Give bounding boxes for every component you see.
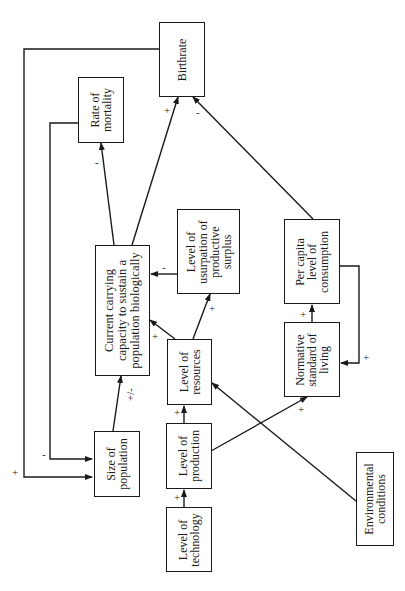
sign-res-usurp: + bbox=[209, 303, 215, 314]
node-birthrate: Birthrate bbox=[159, 22, 205, 97]
node-label: Level of production bbox=[177, 430, 201, 482]
sign-res-cap: + bbox=[152, 331, 158, 342]
node-label: Normative standard of living bbox=[294, 333, 330, 387]
node-rate-of-mortality: Rate of mortality bbox=[78, 77, 124, 143]
sign-pop-cap: +/- bbox=[125, 388, 136, 401]
node-normative-standard: Normative standard of living bbox=[284, 322, 340, 397]
sign-cap-birth: + bbox=[164, 105, 170, 116]
node-level-of-technology: Level of technology bbox=[166, 507, 212, 572]
sign-birth-pop: + bbox=[12, 467, 18, 478]
node-level-of-resources: Level of resources bbox=[167, 339, 212, 405]
edge-resources-usurpation bbox=[193, 294, 210, 339]
sign-cap-mort: - bbox=[95, 157, 99, 168]
sign-mort-pop: - bbox=[42, 449, 46, 460]
node-label: Level of resources bbox=[178, 349, 202, 394]
node-label: Birthrate bbox=[176, 38, 188, 81]
node-carrying-capacity: Current carrying capacity to sustain a p… bbox=[95, 245, 150, 376]
edge-consumption-normative bbox=[339, 266, 359, 363]
sign-tech-prod: + bbox=[174, 492, 180, 503]
edge-population-capacity bbox=[113, 376, 121, 431]
edge-mortality-population bbox=[50, 123, 92, 459]
edge-capacity-birthrate bbox=[132, 97, 178, 245]
sign-prod-res: + bbox=[174, 407, 180, 418]
node-label: Environmental conditions bbox=[363, 463, 387, 534]
edge-consumption-birthrate bbox=[193, 97, 313, 219]
node-label: Size of population bbox=[105, 438, 129, 489]
sign-usurp-cap: - bbox=[162, 262, 166, 273]
node-label: Level of technology bbox=[177, 513, 201, 566]
node-label: Level of usurpation of productive surplu… bbox=[185, 220, 233, 284]
node-usurpation: Level of usurpation of productive surplu… bbox=[177, 209, 240, 294]
node-label: Per capita level of consumption bbox=[294, 231, 330, 293]
node-environmental-conditions: Environmental conditions bbox=[356, 452, 394, 546]
node-label: Current carrying capacity to sustain a p… bbox=[103, 252, 142, 368]
edge-production-normative bbox=[211, 397, 307, 451]
sign-norm-cons: + bbox=[300, 309, 306, 320]
edge-capacity-mortality bbox=[101, 143, 114, 245]
edge-environment-resources bbox=[212, 383, 356, 501]
sign-cons-norm: + bbox=[363, 352, 369, 363]
node-per-capita-consumption: Per capita level of consumption bbox=[284, 219, 340, 304]
sign-prod-norm: + bbox=[298, 404, 304, 415]
node-label: Rate of mortality bbox=[89, 88, 113, 132]
node-level-of-production: Level of production bbox=[166, 423, 212, 489]
sign-cons-birth: - bbox=[196, 107, 200, 118]
node-size-of-population: Size of population bbox=[94, 431, 140, 497]
